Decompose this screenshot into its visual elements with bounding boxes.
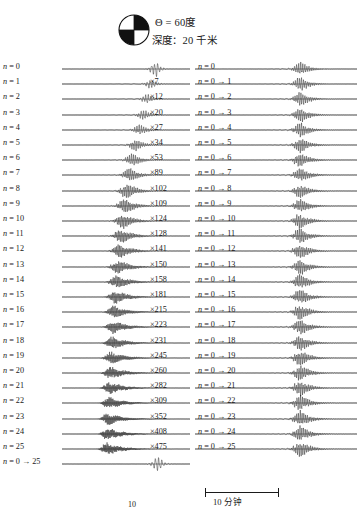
- trace-label: n = 18: [3, 337, 24, 345]
- trace-label: n = 5: [3, 139, 20, 147]
- trace-label: n = 4: [3, 124, 20, 132]
- trace-label: n = 7: [3, 169, 20, 177]
- seismic-trace: [62, 454, 190, 474]
- trace-label: n = 2: [3, 93, 20, 101]
- trace-label: n = 22: [3, 397, 24, 405]
- trace-label: n = 25: [3, 443, 24, 451]
- trace-label: n = 16: [3, 306, 24, 314]
- trace-label: n = 0: [3, 63, 20, 71]
- trace-label: n = 15: [3, 291, 24, 299]
- scale-bar-line: [205, 492, 279, 493]
- trace-row: n = 0 → 25: [0, 458, 190, 473]
- trace-label: n = 19: [3, 352, 24, 360]
- trace-label: n = 9: [3, 200, 20, 208]
- trace-label: n = 10: [3, 215, 24, 223]
- bottom-tick-label: 10: [128, 500, 136, 509]
- trace-label: n = 23: [3, 413, 24, 421]
- seismogram-figure: Θ = 60度 深度：20 千米 n = 0n = 1×7n = 2×12n =…: [0, 0, 357, 522]
- trace-label: n = 20: [3, 367, 24, 375]
- left-panel-individual-modes: n = 0n = 1×7n = 2×12n = 3×20n = 4×27n = …: [0, 0, 190, 522]
- scale-bar: 10 分钟: [205, 487, 295, 511]
- scale-bar-tick-left: [205, 488, 206, 497]
- trace-label: n = 1: [3, 78, 20, 86]
- trace-label: n = 13: [3, 261, 24, 269]
- trace-label: n = 8: [3, 185, 20, 193]
- trace-label: n = 21: [3, 382, 24, 390]
- trace-label: n = 24: [3, 428, 24, 436]
- scale-bar-label: 10 分钟: [213, 498, 242, 507]
- trace-label: n = 11: [3, 230, 24, 238]
- scale-bar-tick-right: [278, 488, 279, 497]
- trace-row: n = 0 → 25: [190, 443, 357, 458]
- right-panel-cumulative-sums: n = 0n = 0 → 1n = 0 → 2n = 0 → 3n = 0 → …: [190, 0, 357, 522]
- trace-label: n = 0 → 25: [3, 458, 40, 466]
- trace-label: n = 14: [3, 276, 24, 284]
- trace-label: n = 3: [3, 109, 20, 117]
- trace-label: n = 6: [3, 154, 20, 162]
- trace-label: n = 12: [3, 245, 24, 253]
- seismic-trace: [195, 439, 357, 459]
- trace-label: n = 17: [3, 321, 24, 329]
